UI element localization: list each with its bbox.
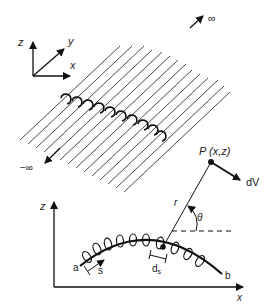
end-label-b: b <box>225 270 231 281</box>
r-label: r <box>174 197 178 208</box>
path-s-label: s <box>98 265 103 276</box>
axis-x-label-bottom: x <box>236 292 243 303</box>
axis-z-label-bottom: z <box>39 200 46 212</box>
top-current-loops <box>61 94 166 141</box>
axis-y-label: y <box>67 35 75 47</box>
theta-arc <box>188 206 197 231</box>
bottom-axes: z x <box>39 200 243 303</box>
minus-infinity-label: −∞ <box>20 162 33 173</box>
ds-label: ds <box>152 263 162 275</box>
axis-x-label: x <box>69 59 76 71</box>
top-axes: z y x <box>17 35 76 76</box>
minus-infinity-arrow: −∞ <box>20 148 60 173</box>
diagram-canvas: z y x ∞ −∞ <box>0 0 273 306</box>
ds-marker <box>149 250 167 263</box>
path-s-arrow: s <box>84 260 104 276</box>
plus-infinity-arrow: ∞ <box>190 12 216 28</box>
point-p-label: P (x,z) <box>199 145 231 157</box>
dv-arrow <box>211 162 240 180</box>
start-label-a: a <box>73 262 79 273</box>
theta-label: θ <box>197 212 203 223</box>
plus-infinity-label: ∞ <box>208 12 216 24</box>
dv-label: dV <box>246 176 260 188</box>
r-vector <box>163 162 211 247</box>
axis-z-label: z <box>17 36 24 48</box>
